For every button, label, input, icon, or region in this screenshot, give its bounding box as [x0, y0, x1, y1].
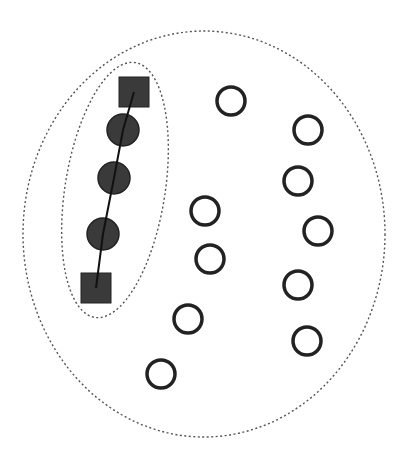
cluster-diagram [0, 0, 406, 467]
diagram-canvas [0, 0, 406, 467]
path-chain [81, 77, 149, 303]
open-node-circle [174, 305, 202, 333]
open-node-circle [147, 360, 175, 388]
open-node-circle [284, 271, 312, 299]
open-node-circle [304, 217, 332, 245]
open-node-circle [294, 116, 322, 144]
open-node-circle [284, 167, 312, 195]
open-node-circle [196, 245, 224, 273]
open-node-circle [217, 87, 245, 115]
open-nodes [147, 87, 332, 388]
open-node-circle [293, 327, 321, 355]
open-node-circle [191, 197, 219, 225]
